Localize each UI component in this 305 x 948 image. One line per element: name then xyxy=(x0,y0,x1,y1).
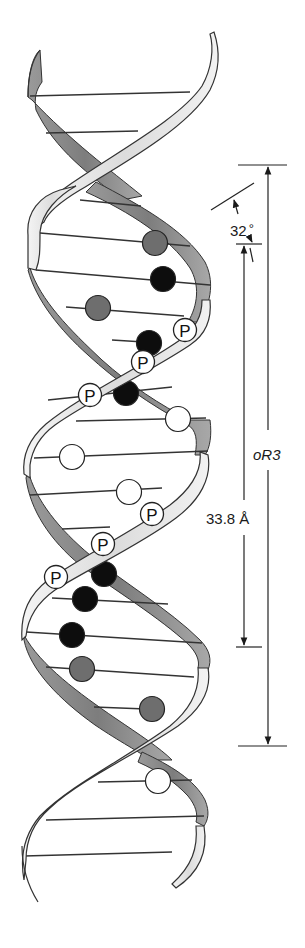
base-pair-rung xyxy=(62,527,110,529)
angle-arrow-down xyxy=(250,248,253,262)
phosphate-label: P xyxy=(146,506,157,525)
base-gray-icon xyxy=(86,296,111,321)
front-strand-segment-2 xyxy=(28,186,76,270)
dna-double-helix-diagram: PPPPPP oR3 33.8 Å 32° xyxy=(0,0,305,948)
base-pair-rung xyxy=(24,852,172,856)
base-white-icon xyxy=(117,480,142,505)
front-strand-segment-4 xyxy=(22,452,209,640)
phosphate-group: P xyxy=(92,533,115,556)
base-white-icon xyxy=(166,407,191,432)
dimension-annotations: oR3 33.8 Å 32° xyxy=(206,165,287,746)
phosphate-group: P xyxy=(45,566,68,589)
base-black-icon xyxy=(151,267,176,292)
phosphate-label: P xyxy=(137,354,148,373)
angle-arrow-down-2 xyxy=(249,236,252,242)
base-white-icon xyxy=(60,445,85,470)
base-gray-icon xyxy=(143,231,168,256)
base-pair-rung xyxy=(66,307,184,316)
base-gray-icon xyxy=(140,697,165,722)
angle-reference-line xyxy=(211,183,254,210)
phosphate-group: P xyxy=(132,351,155,374)
phosphate-label: P xyxy=(50,569,61,588)
phosphate-label: P xyxy=(179,322,190,341)
base-white-icon xyxy=(146,769,171,794)
phosphate-group: P xyxy=(79,384,102,407)
phosphate-group: P xyxy=(174,319,197,342)
angle-label: 32° xyxy=(230,221,254,239)
phosphate-label: P xyxy=(97,536,108,555)
pitch-label: oR3 xyxy=(253,446,281,463)
base-pair-rung xyxy=(30,92,190,96)
base-black-icon xyxy=(60,623,85,648)
base-pair-rung xyxy=(46,816,204,820)
rise-label: 33.8 Å xyxy=(206,510,249,527)
base-pair-rung xyxy=(46,667,194,677)
base-gray-icon xyxy=(70,657,95,682)
angle-arrow-up xyxy=(234,200,238,214)
angle-value: 32 xyxy=(230,222,247,239)
front-strand xyxy=(22,32,218,902)
front-strand-segment-6 xyxy=(172,826,205,888)
base-pair-rung xyxy=(36,270,210,285)
phosphate-group: P xyxy=(141,503,164,526)
angle-unit: ° xyxy=(249,221,254,236)
phosphate-label: P xyxy=(84,387,95,406)
base-pair-rung xyxy=(30,488,162,495)
base-black-icon xyxy=(73,587,98,612)
